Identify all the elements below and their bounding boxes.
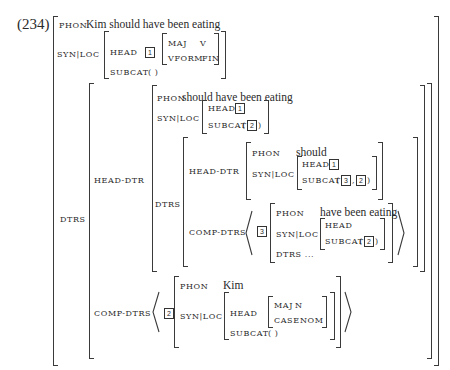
inner-comp-dtrs-tag: 3 [257,226,267,237]
head-dtr-subcat-close: ) [258,122,262,130]
head-dtr-label: HEAD-DTR [94,177,144,185]
head-dtr-head-tag: 1 [235,103,245,114]
comp-dtrs-maj-value: N [295,302,303,310]
inner-dtrs-bracket-left [183,137,188,267]
root-synloc-label: SYN|LOC [57,51,100,59]
root-phon-label: PHON [59,22,87,30]
inner-head-dtr-synloc-label: SYN|LOC [252,171,295,179]
head-dtr-synloc-bracket-right [264,100,269,134]
inner-head-dtr-head-tag: 1 [329,159,339,170]
inner-comp-dtrs-subcat-close: ) [375,238,379,246]
inner-dtrs-bracket-right [413,137,418,267]
comp-dtrs-bracket-left [174,276,179,348]
inner-head-dtr-subcat-close: ) [367,177,371,185]
comp-dtrs-head-bracket-left [268,296,273,328]
comp-dtrs-tag: 2 [164,308,174,319]
comp-dtrs-case-value: NOM [300,317,324,325]
root-subcat-label: SUBCAT [110,69,149,77]
inner-comp-dtrs-phon-value: have been eating [320,207,397,219]
comp-dtrs-phon-value: Kim [223,280,243,292]
inner-comp-dtrs-dtrs-label: DTRS ... [276,251,314,259]
comp-dtrs-subcat-value: ( ) [268,330,279,338]
comp-dtrs-phon-label: PHON [180,283,208,291]
inner-head-dtr-head-label: HEAD [302,161,329,169]
inner-head-dtr-label: HEAD-DTR [189,168,239,176]
inner-head-dtr-subcat-label: SUBCAT [302,177,341,185]
head-dtr-phon-value: should have been eating [182,92,293,104]
inner-head-dtr-phon-label: PHON [252,150,280,158]
root-maj-value: V [200,40,206,48]
inner-head-dtr-subcat-tag-a: 3 [341,175,351,186]
comp-dtrs-langle [151,291,161,333]
comp-dtrs-synloc-bracket-right [330,292,335,340]
inner-comp-dtrs-langle [244,210,254,256]
root-dtrs-label: DTRS [60,216,86,224]
comp-dtrs-maj-label: MAJ [274,302,293,310]
inner-head-dtr-subcat-tag-b: 2 [356,175,366,186]
comp-dtrs-case-label: CASE [274,317,300,325]
inner-comp-dtrs-subcat-tag: 2 [364,236,374,247]
head-dtr-dtrs-label: DTRS [155,201,181,209]
root-head-bracket-left [162,33,167,65]
inner-head-dtr-bracket-left [246,142,251,200]
inner-head-dtr-subcat-sep: , [352,177,355,185]
head-dtr-subcat-tag: 2 [247,120,257,131]
root-maj-label: MAJ [168,40,187,48]
inner-comp-dtrs-head-label: HEAD [325,222,352,230]
root-vform-label: VFORM [168,55,203,63]
head-dtr-subcat-open: ( [242,122,246,130]
inner-comp-dtrs-synloc-label: SYN|LOC [276,231,319,239]
head-dtr-subcat-label: SUBCAT [208,122,247,130]
root-synloc-bracket-left [104,31,109,79]
head-dtr-synloc-label: SYN|LOC [157,115,200,123]
inner-comp-dtrs-synloc-bracket-right [380,218,385,250]
example-number: (234) [17,17,50,32]
root-bracket-left [53,16,58,366]
root-phon-value: Kim should have been eating [86,19,220,31]
comp-dtrs-subcat-label: SUBCAT [230,330,269,338]
root-head-tag: 1 [145,47,155,58]
inner-head-dtr-synloc-bracket-right [372,156,377,190]
comp-dtrs-label: COMP-DTRS [94,310,151,318]
inner-head-dtr-subcat-open: ( [336,177,340,185]
root-subcat-value: ( ) [148,69,159,77]
inner-comp-dtrs-rangle [396,210,406,256]
inner-comp-dtrs-subcat-label: SUBCAT [325,238,364,246]
root-head-label: HEAD [110,49,137,57]
comp-dtrs-synloc-label: SYN|LOC [180,313,223,321]
root-synloc-bracket-right [221,31,226,79]
comp-dtrs-synloc-bracket-left [224,292,229,340]
root-bracket-right [434,16,439,366]
inner-comp-dtrs-subcat-open: ( [359,238,363,246]
head-dtr-synloc-bracket-left [202,100,207,134]
comp-dtrs-bracket-right [336,276,341,348]
root-vform-value: FIN [202,55,220,63]
inner-comp-dtrs-phon-label: PHON [276,210,304,218]
inner-comp-dtrs-label: COMP-DTRS [189,229,246,237]
inner-head-dtr-bracket-right [378,142,383,200]
head-dtr-bracket-right [420,85,425,272]
dtrs-bracket-right [427,83,432,359]
inner-comp-dtrs-bracket-left [270,203,275,263]
head-dtr-head-label: HEAD [208,105,235,113]
comp-dtrs-rangle [343,291,353,333]
comp-dtrs-head-label: HEAD [230,310,257,318]
